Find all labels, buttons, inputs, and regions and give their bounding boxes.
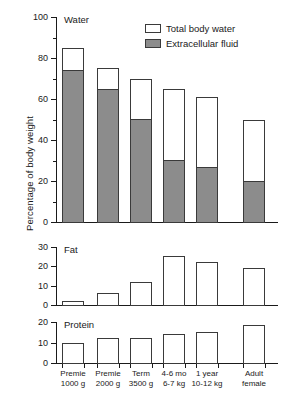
bar-fill-extracellular-0 <box>63 70 83 222</box>
y-tick-label-protein-10: 10 <box>22 339 48 348</box>
bar-fill-extracellular-1 <box>98 89 118 222</box>
y-tick-fat-20 <box>51 266 56 267</box>
figure: Percentage of body weight 020406080100Wa… <box>0 0 291 407</box>
legend-label-extracellular-fluid: Extracellular fluid <box>166 39 238 49</box>
bar-fill-extracellular-5 <box>244 181 264 222</box>
panel-title-protein: Protein <box>64 320 94 330</box>
y-tick-label-water-0: 0 <box>22 218 48 227</box>
x-tick-right-4 <box>218 364 219 368</box>
panel-title-fat: Fat <box>64 245 78 255</box>
x-tick-right-1 <box>119 364 120 368</box>
bar-fill-extracellular-2 <box>131 119 151 222</box>
x-category-label-5-line-0: Adult <box>231 369 277 379</box>
bar-protein-0 <box>62 343 84 364</box>
x-category-label-4: 1 year10-12 kg <box>184 369 230 388</box>
y-axis-label: Percentage of body weight <box>24 89 35 259</box>
bar-fat-5 <box>243 268 265 306</box>
legend-item-total-body-water: Total body water <box>145 22 238 35</box>
y-axis-line-fat <box>56 247 57 306</box>
bar-water-1 <box>97 68 119 223</box>
x-tick-right-5 <box>265 364 266 368</box>
y-minor-tick-water-90 <box>53 38 56 39</box>
y-tick-protein-20 <box>51 322 56 323</box>
x-tick-right-3 <box>185 364 186 368</box>
bar-protein-5 <box>243 325 265 364</box>
y-tick-label-water-40: 40 <box>22 136 48 145</box>
y-tick-label-water-20: 20 <box>22 177 48 186</box>
y-tick-label-fat-0: 0 <box>22 301 48 310</box>
bar-fat-1 <box>97 293 119 306</box>
bar-protein-1 <box>97 338 119 364</box>
x-tick-left-2 <box>130 364 131 368</box>
bar-water-2 <box>130 79 152 223</box>
y-tick-water-0 <box>51 222 56 223</box>
legend-item-extracellular-fluid: Extracellular fluid <box>145 37 238 50</box>
legend-swatch-total-body-water <box>145 24 161 33</box>
y-tick-protein-10 <box>51 343 56 344</box>
y-tick-label-water-60: 60 <box>22 95 48 104</box>
x-tick-left-0 <box>62 364 63 368</box>
bar-fat-0 <box>62 301 84 306</box>
bar-fill-extracellular-3 <box>164 160 184 222</box>
y-tick-water-40 <box>51 140 56 141</box>
y-tick-water-80 <box>51 58 56 59</box>
y-tick-water-20 <box>51 181 56 182</box>
legend: Total body water Extracellular fluid <box>145 22 238 52</box>
y-tick-label-fat-30: 30 <box>22 243 48 252</box>
y-tick-fat-30 <box>51 247 56 248</box>
y-minor-tick-water-50 <box>53 120 56 121</box>
bar-fat-3 <box>163 256 185 306</box>
bar-water-5 <box>243 120 265 223</box>
y-tick-label-water-80: 80 <box>22 54 48 63</box>
y-tick-label-fat-10: 10 <box>22 282 48 291</box>
legend-label-total-body-water: Total body water <box>166 24 235 34</box>
y-axis-line-protein <box>56 322 57 364</box>
bar-protein-2 <box>130 338 152 364</box>
bar-fat-2 <box>130 282 152 306</box>
y-minor-tick-water-70 <box>53 79 56 80</box>
y-axis-line-water <box>56 17 57 223</box>
y-tick-fat-0 <box>51 305 56 306</box>
x-category-label-5: Adultfemale <box>231 369 277 388</box>
x-tick-right-2 <box>152 364 153 368</box>
x-tick-left-3 <box>163 364 164 368</box>
x-category-label-5-line-1: female <box>231 379 277 389</box>
y-tick-water-100 <box>51 17 56 18</box>
bar-fat-4 <box>196 262 218 306</box>
bar-water-3 <box>163 89 185 223</box>
bar-water-4 <box>196 97 218 223</box>
bar-protein-3 <box>163 334 185 364</box>
x-category-label-4-line-1: 10-12 kg <box>184 379 230 389</box>
legend-swatch-extracellular-fluid <box>145 39 161 48</box>
bar-fill-extracellular-4 <box>197 167 217 222</box>
x-tick-left-5 <box>243 364 244 368</box>
panel-title-water: Water <box>64 15 89 25</box>
y-minor-tick-water-10 <box>53 202 56 203</box>
bar-protein-4 <box>196 332 218 364</box>
y-tick-fat-10 <box>51 286 56 287</box>
bar-water-0 <box>62 48 84 223</box>
y-tick-water-60 <box>51 99 56 100</box>
y-tick-label-fat-20: 20 <box>22 262 48 271</box>
y-tick-protein-0 <box>51 363 56 364</box>
x-tick-left-4 <box>196 364 197 368</box>
x-tick-left-1 <box>97 364 98 368</box>
y-tick-label-protein-20: 20 <box>22 318 48 327</box>
x-category-label-4-line-0: 1 year <box>184 369 230 379</box>
x-tick-right-0 <box>84 364 85 368</box>
y-tick-label-water-100: 100 <box>22 13 48 22</box>
y-minor-tick-water-30 <box>53 161 56 162</box>
y-tick-label-protein-0: 0 <box>22 359 48 368</box>
